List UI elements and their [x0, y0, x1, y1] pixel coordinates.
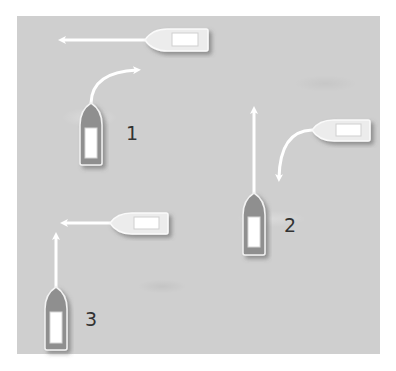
scenario-1 [62, 29, 208, 165]
boat-horizontal-light [145, 29, 208, 51]
scenario-3 [45, 213, 168, 350]
boat-horizontal-light [312, 120, 370, 141]
boat-horizontal-light [110, 213, 168, 234]
path-arrow-curve-right [91, 70, 137, 103]
boat-vertical-gray [80, 103, 102, 165]
boat-vertical-gray [45, 287, 67, 350]
scenario-2 [243, 110, 370, 255]
boat-vertical-gray [243, 193, 265, 255]
diagram-canvas [0, 0, 396, 371]
scenario-label-2: 2 [284, 214, 296, 236]
path-arrow-curve-down [279, 130, 312, 178]
scenario-label-1: 1 [126, 122, 138, 144]
scenario-label-3: 3 [85, 308, 97, 330]
